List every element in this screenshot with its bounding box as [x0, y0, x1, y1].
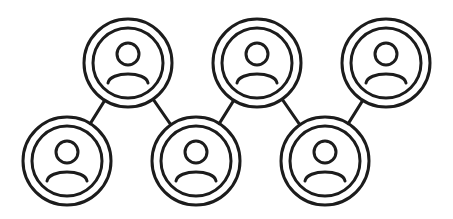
outer-ring	[213, 19, 301, 107]
connector-line	[90, 100, 104, 123]
inner-ring	[351, 28, 421, 98]
user-icon	[366, 43, 406, 83]
outer-ring	[23, 117, 111, 205]
user-node: User 4	[213, 19, 301, 107]
user-icon	[47, 141, 87, 181]
user-node: User 3	[152, 117, 240, 205]
outer-ring	[342, 19, 430, 107]
user-node: User 1	[23, 117, 111, 205]
user-icon	[108, 43, 148, 83]
inner-ring	[161, 126, 231, 196]
inner-ring	[222, 28, 292, 98]
user-node: User 5	[281, 117, 369, 205]
inner-ring	[32, 126, 102, 196]
edges-layer	[90, 99, 362, 125]
connector-line	[219, 100, 233, 123]
inner-ring	[290, 126, 360, 196]
outer-ring	[152, 117, 240, 205]
connector-line	[348, 100, 362, 123]
connector-line	[282, 99, 300, 125]
network-diagram: User network User 1User 2User 3User 4Use…	[0, 0, 453, 219]
user-node: User 2	[84, 19, 172, 107]
user-icon	[176, 141, 216, 181]
user-icon	[305, 141, 345, 181]
connector-line	[153, 99, 171, 125]
diagram-graphic: User 1User 2User 3User 4User 5User 6	[0, 0, 453, 219]
outer-ring	[84, 19, 172, 107]
user-icon	[237, 43, 277, 83]
outer-ring	[281, 117, 369, 205]
inner-ring	[93, 28, 163, 98]
user-node: User 6	[342, 19, 430, 107]
